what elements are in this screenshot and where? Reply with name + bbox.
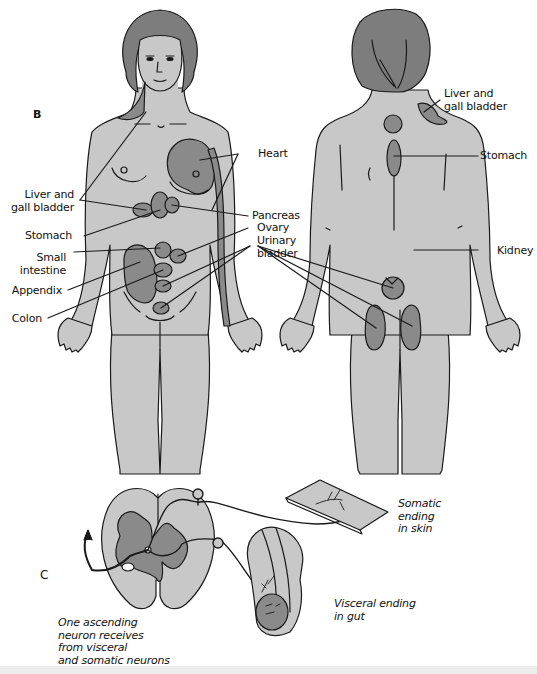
label-front-liver-gall-bladder: Liver and gall bladder bbox=[0, 189, 74, 214]
label-line: Urinary bbox=[257, 235, 298, 248]
label-visceral-ending: Visceral ending in gut bbox=[334, 598, 416, 623]
label-line: Visceral ending bbox=[334, 598, 416, 611]
label-line: intestine bbox=[0, 265, 66, 278]
label-line: One ascending bbox=[58, 617, 170, 630]
label-ovary: Ovary bbox=[257, 222, 289, 235]
label-heart: Heart bbox=[258, 148, 288, 161]
label-line: in skin bbox=[398, 523, 441, 536]
label-line: gall bladder bbox=[444, 101, 507, 114]
bottom-border bbox=[0, 666, 537, 674]
label-line: bladder bbox=[257, 248, 298, 261]
label-front-stomach: Stomach bbox=[0, 230, 72, 243]
label-line: from visceral bbox=[58, 642, 170, 655]
label-somatic-ending: Somatic ending in skin bbox=[398, 498, 441, 536]
label-front-colon: Colon bbox=[0, 313, 42, 326]
label-front-appendix: Appendix bbox=[0, 285, 62, 298]
panel-label-b: B bbox=[33, 108, 41, 121]
skin-patch bbox=[286, 480, 388, 534]
label-line: gall bladder bbox=[0, 202, 74, 215]
label-line: Small bbox=[0, 252, 66, 265]
label-kidney: Kidney bbox=[497, 245, 533, 258]
back-body-figure bbox=[280, 9, 520, 474]
label-back-stomach: Stomach bbox=[480, 150, 527, 163]
label-ascending-neuron: One ascending neuron receives from visce… bbox=[58, 617, 170, 667]
front-body-figure bbox=[58, 10, 262, 474]
gut-segment bbox=[247, 527, 302, 635]
label-back-liver-gall-bladder: Liver and gall bladder bbox=[444, 88, 507, 113]
panel-label-c: C bbox=[40, 568, 48, 582]
label-line: Somatic bbox=[398, 498, 441, 511]
label-line: in gut bbox=[334, 611, 416, 624]
label-urinary-bladder: Urinary bladder bbox=[257, 235, 298, 260]
label-front-small-intestine: Small intestine bbox=[0, 252, 66, 277]
label-line: Liver and bbox=[0, 189, 74, 202]
label-line: Liver and bbox=[444, 88, 507, 101]
